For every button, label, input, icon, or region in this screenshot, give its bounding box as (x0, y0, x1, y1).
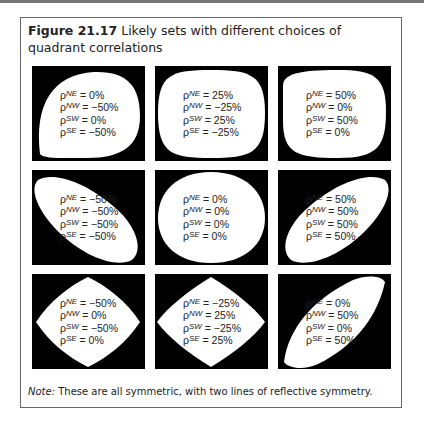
correlation-sw: ρSW = 25% (183, 114, 268, 127)
correlation-ne: ρNE = 50% (306, 193, 391, 206)
correlation-labels: ρNE = 50%ρNW = 0%ρSW = 50%ρSE = 0% (278, 66, 391, 161)
note-label: Note: (28, 386, 55, 397)
correlation-nw: ρNW = 0% (183, 205, 268, 218)
figure-note: Note: These are all symmetric, with two … (28, 386, 372, 397)
correlation-ne: ρNE = 25% (183, 89, 268, 102)
correlation-labels: ρNE = 0%ρNW = 50%ρSW = 0%ρSE = 50% (278, 274, 391, 369)
correlation-se: ρSE = −50% (60, 126, 145, 139)
correlation-nw: ρNW = −50% (60, 101, 145, 114)
correlation-sw: ρSW = −50% (60, 218, 145, 231)
correlation-nw: ρNW = 0% (306, 101, 391, 114)
correlation-se: ρSE = 0% (183, 230, 268, 243)
correlation-labels: ρNE = −50%ρNW = −50%ρSW = −50%ρSE = −50% (32, 170, 145, 265)
page-top-rule (0, 0, 424, 3)
correlation-nw: ρNW = −25% (183, 101, 268, 114)
correlation-labels: ρNE = −50%ρNW = 0%ρSW = −50%ρSE = 0% (32, 274, 145, 369)
likely-set-panel: ρNE = 50%ρNW = 0%ρSW = 50%ρSE = 0% (278, 66, 391, 161)
likely-set-panel: ρNE = −50%ρNW = 0%ρSW = −50%ρSE = 0% (32, 274, 145, 369)
likely-set-panel: ρNE = 50%ρNW = 50%ρSW = 50%ρSE = 50% (278, 170, 391, 265)
note-text: These are all symmetric, with two lines … (58, 386, 372, 397)
correlation-ne: ρNE = −25% (183, 297, 268, 310)
correlation-se: ρSE = −25% (183, 126, 268, 139)
likely-set-panel: ρNE = 0%ρNW = −50%ρSW = 0%ρSE = −50% (32, 66, 145, 161)
likely-set-panel: ρNE = −25%ρNW = 25%ρSW = −25%ρSE = 25% (155, 274, 268, 369)
correlation-labels: ρNE = 50%ρNW = 50%ρSW = 50%ρSE = 50% (278, 170, 391, 265)
figure-number: Figure 21.17 (28, 23, 117, 38)
correlation-nw: ρNW = 0% (60, 309, 145, 322)
correlation-nw: ρNW = 50% (306, 205, 391, 218)
correlation-labels: ρNE = −25%ρNW = 25%ρSW = −25%ρSE = 25% (155, 274, 268, 369)
correlation-ne: ρNE = −50% (60, 297, 145, 310)
correlation-se: ρSE = 50% (306, 230, 391, 243)
likely-set-panel: ρNE = −50%ρNW = −50%ρSW = −50%ρSE = −50% (32, 170, 145, 265)
correlation-sw: ρSW = 0% (306, 322, 391, 335)
correlation-se: ρSE = 0% (60, 334, 145, 347)
correlation-nw: ρNW = 25% (183, 309, 268, 322)
correlation-se: ρSE = 0% (306, 126, 391, 139)
likely-set-panel: ρNE = 25%ρNW = −25%ρSW = 25%ρSE = −25% (155, 66, 268, 161)
correlation-labels: ρNE = 0%ρNW = 0%ρSW = 0%ρSE = 0% (155, 170, 268, 265)
correlation-sw: ρSW = −25% (183, 322, 268, 335)
correlation-ne: ρNE = 50% (306, 89, 391, 102)
correlation-se: ρSE = −50% (60, 230, 145, 243)
correlation-labels: ρNE = 0%ρNW = −50%ρSW = 0%ρSE = −50% (32, 66, 145, 161)
correlation-ne: ρNE = −50% (60, 193, 145, 206)
likely-set-panel: ρNE = 0%ρNW = 0%ρSW = 0%ρSE = 0% (155, 170, 268, 265)
correlation-nw: ρNW = −50% (60, 205, 145, 218)
figure-caption: Figure 21.17 Likely sets with different … (28, 22, 398, 56)
panel-grid: ρNE = 0%ρNW = −50%ρSW = 0%ρSE = −50%ρNE … (32, 66, 388, 376)
correlation-ne: ρNE = 0% (60, 89, 145, 102)
correlation-labels: ρNE = 25%ρNW = −25%ρSW = 25%ρSE = −25% (155, 66, 268, 161)
correlation-se: ρSE = 50% (306, 334, 391, 347)
correlation-nw: ρNW = 50% (306, 309, 391, 322)
correlation-sw: ρSW = −50% (60, 322, 145, 335)
correlation-ne: ρNE = 0% (183, 193, 268, 206)
correlation-se: ρSE = 25% (183, 334, 268, 347)
correlation-sw: ρSW = 50% (306, 114, 391, 127)
correlation-sw: ρSW = 50% (306, 218, 391, 231)
correlation-sw: ρSW = 0% (60, 114, 145, 127)
likely-set-panel: ρNE = 0%ρNW = 50%ρSW = 0%ρSE = 50% (278, 274, 391, 369)
correlation-sw: ρSW = 0% (183, 218, 268, 231)
correlation-ne: ρNE = 0% (306, 297, 391, 310)
